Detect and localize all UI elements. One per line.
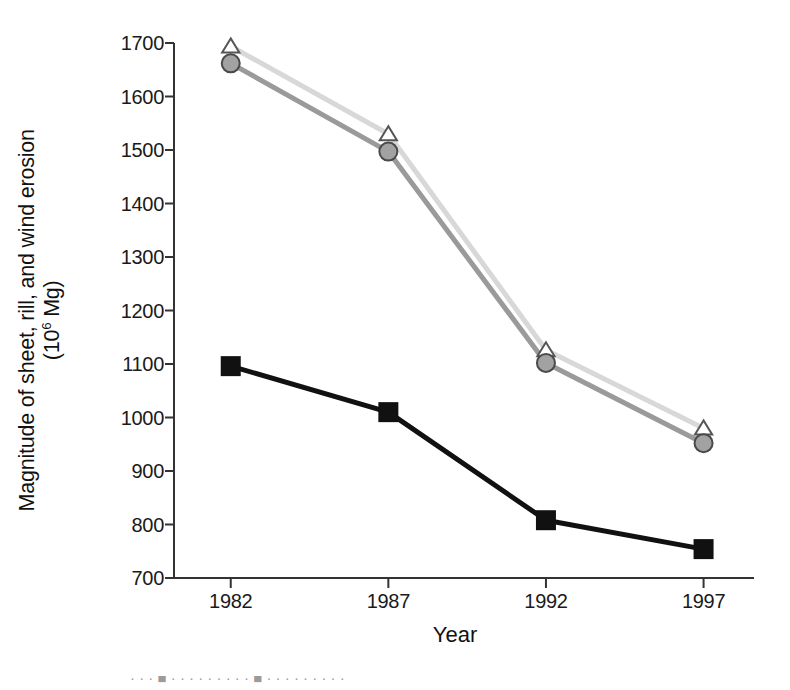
x-axis-title-text: Year <box>433 622 477 647</box>
marker-square-1992 <box>537 511 555 529</box>
marker-circle-1992 <box>537 354 555 372</box>
marker-circle-1982 <box>222 54 240 72</box>
x-axis-title: Year <box>0 622 790 648</box>
marker-circle-1987 <box>379 143 397 161</box>
marker-square-1987 <box>379 403 397 421</box>
erosion-line-chart: Magnitude of sheet, rill, and wind erosi… <box>0 0 790 690</box>
caption-text: · · · ■ · · · · · · · · · ■ · · · · · · … <box>130 676 345 686</box>
marker-circle-1997 <box>695 434 713 452</box>
caption-strip: · · · ■ · · · · · · · · · ■ · · · · · · … <box>0 676 790 690</box>
marker-triangle-1982 <box>222 38 239 52</box>
plot-area <box>0 0 790 690</box>
marker-square-1997 <box>695 540 713 558</box>
marker-square-1982 <box>222 357 240 375</box>
